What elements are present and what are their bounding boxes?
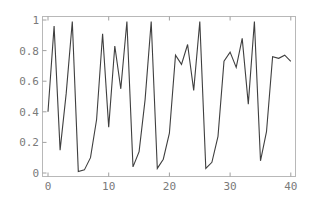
data-series-line bbox=[48, 22, 291, 172]
y-tick-label: 0.4 bbox=[19, 106, 39, 119]
y-tick-label: 1 bbox=[32, 14, 39, 27]
x-tick-label: 30 bbox=[223, 180, 236, 193]
x-axis: 010203040 bbox=[45, 17, 298, 194]
x-tick-label: 20 bbox=[163, 180, 176, 193]
y-tick-label: 0.6 bbox=[19, 75, 39, 88]
y-tick-label: 0.8 bbox=[19, 45, 39, 58]
line-chart: 010203040 00.20.40.60.81 bbox=[0, 0, 311, 203]
y-tick-label: 0.2 bbox=[19, 136, 39, 149]
x-tick-label: 0 bbox=[45, 180, 52, 193]
x-tick-label: 40 bbox=[284, 180, 297, 193]
x-tick-label: 10 bbox=[102, 180, 115, 193]
y-tick-label: 0 bbox=[32, 167, 39, 180]
